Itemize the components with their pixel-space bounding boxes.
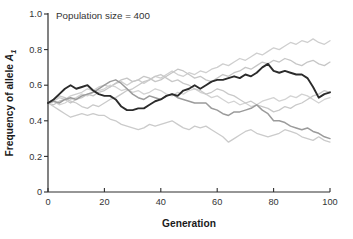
series-group: [48, 39, 330, 142]
y-tick-label: 0.4: [29, 116, 42, 126]
figure: 02040608010000.20.40.60.81.0 Population …: [0, 0, 353, 239]
x-axis-label: Generation: [162, 218, 216, 229]
x-tick-label: 80: [268, 197, 278, 207]
y-axis-label-main: Frequency of allele: [4, 64, 15, 157]
x-tick-label: 0: [45, 197, 50, 207]
y-axis-label: Frequency of alleleA1: [4, 50, 18, 157]
x-tick-label: 100: [322, 197, 337, 207]
x-tick-label: 60: [212, 197, 222, 207]
y-tick-label: 0.6: [29, 80, 42, 90]
series-line-replicate-highlight: [48, 64, 330, 110]
population-size-label: Population size = 400: [56, 10, 151, 21]
y-tick-label: 0.2: [29, 152, 42, 162]
series-line-replicate-light-4: [48, 103, 330, 142]
plot-svg: 02040608010000.20.40.60.81.0 Population …: [0, 0, 353, 239]
x-tick-label: 20: [99, 197, 109, 207]
y-tick-label: 0: [37, 187, 42, 197]
y-tick-label: 1.0: [29, 9, 42, 19]
ticks-group: [44, 14, 330, 192]
y-tick-label: 0.8: [29, 45, 42, 55]
y-axis-label-subscript: 1: [9, 50, 18, 54]
x-tick-label: 40: [156, 197, 166, 207]
axes-group: [48, 13, 330, 192]
y-axis-label-variable: A: [4, 54, 15, 62]
